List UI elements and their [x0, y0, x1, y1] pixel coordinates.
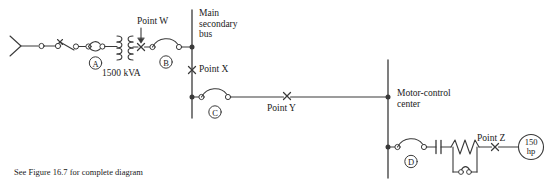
source-terminal-node: [39, 43, 44, 48]
one-line-diagram-figure: Main secondary bus Point W Point X Point…: [0, 0, 555, 187]
point-y-label: Point Y: [267, 103, 296, 114]
breaker-a-designation: A: [89, 59, 102, 69]
transformer-symbol: [117, 36, 138, 60]
mcc-junction-feeder: [386, 95, 391, 100]
main-secondary-bus-label: Main secondary bus: [199, 8, 238, 40]
one-line-diagram-canvas: [0, 0, 555, 187]
switch-right-node: [73, 44, 78, 49]
bus-junction-breaker-b: [190, 45, 195, 50]
switch-left-node: [55, 43, 60, 48]
point-w-arrow: [138, 28, 144, 43]
breaker-c-designation: C: [209, 108, 222, 118]
motor-control-center-label: Motor-control center: [397, 88, 451, 109]
overload-relay-symbol: [451, 140, 479, 174]
point-w-label: Point W: [137, 16, 168, 27]
utility-source-symbol: [10, 36, 38, 56]
breaker-d-designation: D: [405, 157, 418, 167]
point-z-fault-marker: [492, 144, 499, 151]
motor-rating-label: 150 hp: [519, 138, 543, 156]
contactor-symbol: [436, 141, 441, 154]
point-x-label: Point X: [199, 64, 228, 75]
figure-caption: See Figure 16.7 for complete diagram: [14, 167, 143, 177]
point-z-label: Point Z: [477, 133, 505, 144]
transformer-rating-label: 1500 kVA: [102, 68, 141, 79]
breaker-b-designation: B: [160, 58, 173, 68]
point-y-fault-marker: [284, 93, 291, 100]
